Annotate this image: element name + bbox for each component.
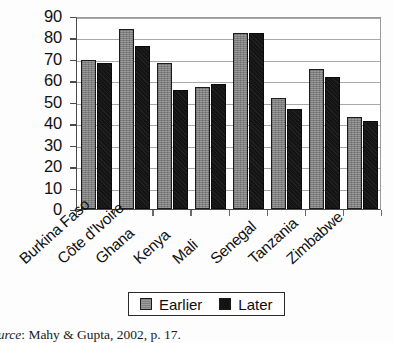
plot-area (76, 17, 381, 210)
bar-later (287, 109, 302, 209)
x-axis-tick-mark (152, 210, 153, 216)
x-axis-tick-mark (190, 210, 191, 216)
y-axis-tick-label: 60 (0, 71, 62, 90)
source-label: ource (0, 327, 21, 342)
legend-swatch-icon (219, 298, 231, 310)
x-axis-category-label: Senegal (207, 218, 260, 268)
legend-label: Earlier (159, 296, 202, 313)
bar-later (173, 90, 188, 209)
bar-later (325, 77, 340, 209)
x-axis-category-label: Kenya (130, 226, 174, 268)
x-axis-tick-mark (114, 210, 115, 216)
bar-group (157, 18, 188, 209)
x-axis-category-label: Zimbabwe (283, 208, 346, 268)
bar-earlier (157, 63, 172, 209)
legend-label: Later (238, 296, 272, 313)
legend-entry-earlier[interactable]: Earlier (140, 296, 202, 313)
x-axis-tick-mark (76, 210, 77, 216)
bar-later (97, 63, 112, 209)
y-axis-tick-label: 10 (0, 179, 62, 198)
bar-later (363, 121, 378, 209)
y-axis-tick-label: 50 (0, 93, 62, 112)
x-axis-tick-mark (305, 210, 306, 216)
y-axis-tick-label: 0 (0, 200, 62, 219)
bar-later (135, 46, 150, 209)
bar-group (347, 18, 378, 209)
x-axis-tick-mark (381, 210, 382, 216)
x-axis-category-label: Mali (168, 236, 200, 268)
x-axis-tick-mark (267, 210, 268, 216)
bar-later (211, 84, 226, 209)
bar-earlier (119, 29, 134, 209)
bar-group (119, 18, 150, 209)
y-axis-tick-label: 40 (0, 114, 62, 133)
bar-earlier (271, 98, 286, 210)
y-axis-tick-label: 20 (0, 157, 62, 176)
chart-legend: EarlierLater (128, 292, 285, 316)
bar-earlier (81, 60, 96, 209)
y-axis-tick-label: 80 (0, 28, 62, 47)
bar-earlier (347, 117, 362, 209)
legend-swatch-icon (140, 298, 152, 310)
chart-figure: 0102030405060708090 Burkina FasoCôte d'I… (0, 0, 394, 343)
source-citation: : Mahy & Gupta, 2002, p. 17. (21, 327, 181, 342)
bar-group (271, 18, 302, 209)
y-axis: 0102030405060708090 (0, 0, 76, 343)
bar-group (195, 18, 226, 209)
x-axis-tick-mark (343, 210, 344, 216)
y-axis-tick-label: 30 (0, 136, 62, 155)
bar-group (81, 18, 112, 209)
bar-earlier (233, 33, 248, 209)
bar-later (249, 33, 264, 209)
legend-entry-later[interactable]: Later (219, 296, 272, 313)
y-axis-tick-label: 70 (0, 50, 62, 69)
x-axis-category-label: Ghana (92, 224, 138, 268)
bar-group (233, 18, 264, 209)
bar-earlier (309, 69, 324, 209)
y-axis-tick-label: 90 (0, 7, 62, 26)
x-axis-category-label: Tanzania (245, 214, 301, 267)
source-caption: ource: Mahy & Gupta, 2002, p. 17. (0, 327, 181, 343)
bar-earlier (195, 87, 210, 209)
bar-group (309, 18, 340, 209)
x-axis-tick-mark (229, 210, 230, 216)
